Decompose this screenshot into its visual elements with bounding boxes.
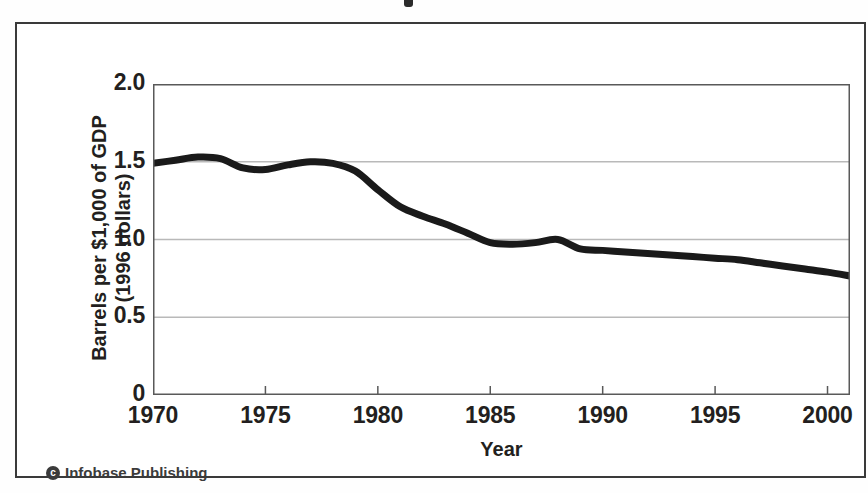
plot-area [153,84,850,395]
y-tick-label: 1.0 [87,225,145,252]
line-chart-svg [153,84,850,395]
y-axis-tick-labels: 00.51.01.52.0 [79,84,145,395]
y-tick-label: 2.0 [87,69,145,96]
chart-page: Barrels per $1,000 of GDP (1996 dollars)… [0,0,868,493]
y-tick-label: 0.5 [87,302,145,329]
x-axis-title: Year [153,438,850,461]
figure-frame: Barrels per $1,000 of GDP (1996 dollars)… [15,22,866,478]
x-tick-label: 1990 [553,402,653,429]
publisher-credit: c Infobase Publishing [46,464,208,481]
copyright-icon: c [46,466,60,480]
x-tick-label: 1970 [103,402,203,429]
x-tick-label: 1980 [328,402,428,429]
x-axis-tick-labels: 1970197519801985199019952000 [153,402,853,432]
x-tick-label: 1995 [665,402,765,429]
y-tick-label: 1.5 [87,147,145,174]
x-tick-label: 1975 [215,402,315,429]
publisher-name: Infobase Publishing [65,464,208,481]
x-tick-label: 2000 [778,402,868,429]
x-tick-label: 1985 [440,402,540,429]
cropped-title-descender [404,0,413,7]
